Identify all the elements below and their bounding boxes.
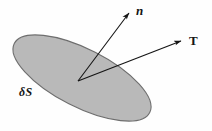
figure-canvas: n T δS <box>0 0 212 131</box>
normal-vector-label: n <box>136 4 143 17</box>
surface-element-label: δS <box>19 86 32 98</box>
traction-vector-label: T <box>189 34 198 47</box>
surface-element-ellipse <box>1 18 163 131</box>
diagram-svg <box>0 0 212 131</box>
